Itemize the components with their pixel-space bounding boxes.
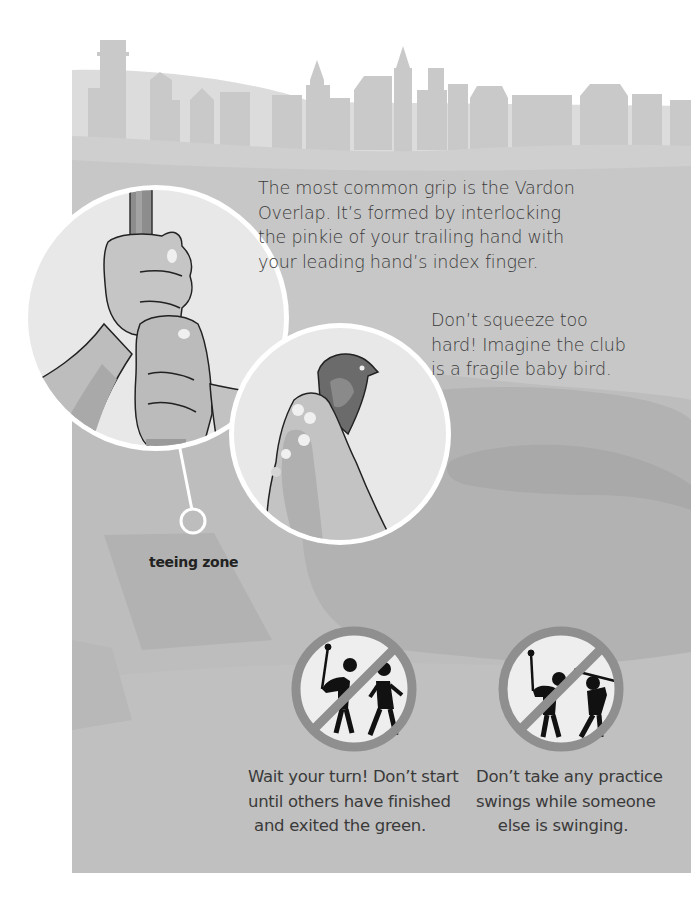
caption-line: Don’t take any practice (476, 765, 650, 790)
book-page: The most common grip is the Vardon Overl… (0, 0, 691, 924)
grip-text-line: your leading hand’s index finger. (258, 250, 638, 275)
caption-line: until others have finished (248, 790, 432, 815)
grip-text-line: the pinkie of your trailing hand with (258, 225, 638, 250)
grip-text-line: Overlap. It’s formed by interlocking (258, 201, 638, 226)
no-practice-swing-icon (497, 625, 625, 753)
caption-line: swings while someone (476, 790, 650, 815)
pressure-text-line: hard! Imagine the club (431, 333, 671, 358)
baby-bird-grip-illustration (228, 322, 452, 546)
vardon-grip-description: The most common grip is the Vardon Overl… (258, 176, 638, 274)
grip-text-line: The most common grip is the Vardon (258, 176, 638, 201)
caption-line: and exited the green. (248, 814, 432, 839)
rule-caption-wait-turn: Wait your turn! Don’t start until others… (248, 765, 432, 839)
rule-caption-no-practice-swings: Don’t take any practice swings while som… (476, 765, 650, 839)
grip-pressure-tip: Don’t squeeze too hard! Imagine the club… (431, 308, 671, 382)
teeing-zone-label: teeing zone (149, 554, 238, 570)
caption-line: Wait your turn! Don’t start (248, 765, 432, 790)
pressure-text-line: is a fragile baby bird. (431, 357, 671, 382)
pressure-text-line: Don’t squeeze too (431, 308, 671, 333)
no-walking-while-swinging-icon (290, 625, 418, 753)
caption-line: else is swinging. (476, 814, 650, 839)
